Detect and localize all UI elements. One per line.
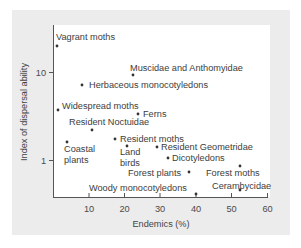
point-vagrant-moths xyxy=(56,45,59,48)
scatter-chart: 10 20 30 40 50 60 10 1 Endemics (%) Inde… xyxy=(0,0,301,248)
label-herbaceous: Herbaceous monocotyledons xyxy=(89,80,208,90)
x-tick-label: 60 xyxy=(262,204,272,214)
label-cerambycidae: Cerambycidae xyxy=(212,181,271,191)
point-coastal-plants xyxy=(66,141,69,144)
x-tick-label: 40 xyxy=(191,204,201,214)
point-resident-moths xyxy=(114,138,117,141)
label-coastal-plants-line1: Coastal xyxy=(64,144,95,154)
label-forest-plants: Forest plants xyxy=(128,168,182,178)
point-dicotyledons xyxy=(167,157,170,160)
label-coastal-plants-line2: plants xyxy=(64,155,89,165)
x-tick-label: 10 xyxy=(84,204,94,214)
label-muscidae: Muscidae and Anthomyidae xyxy=(130,63,243,73)
label-forest-moths: Forest moths xyxy=(206,168,260,178)
y-tick-label: 1 xyxy=(41,156,46,166)
label-resident-noctuidae: Resident Noctuidae xyxy=(69,117,149,127)
point-forest-plants xyxy=(188,171,191,174)
y-axis-title: Index of dispersal ability xyxy=(19,63,29,161)
label-resident-geometridae: Resident Geometridae xyxy=(161,142,253,152)
label-dicotyledons: Dicotyledons xyxy=(172,153,225,163)
y-tick-label: 10 xyxy=(36,68,46,78)
x-tick-label: 30 xyxy=(155,204,165,214)
point-herbaceous xyxy=(81,84,84,87)
x-axis-title: Endemics (%) xyxy=(132,219,189,229)
point-forest-moths xyxy=(239,165,242,168)
label-vagrant-moths: Vagrant moths xyxy=(56,32,115,42)
point-labels: Vagrant moths Muscidae and Anthomyidae H… xyxy=(56,32,271,193)
point-ferns xyxy=(137,113,140,116)
label-woody-monocotyledons: Woody monocotyledons xyxy=(89,183,187,193)
point-woody-monocotyledons xyxy=(195,193,198,196)
y-tick-labels: 10 1 xyxy=(36,68,46,166)
point-resident-noctuidae xyxy=(91,129,94,132)
label-land-birds-line2: birds xyxy=(120,158,140,168)
x-tick-labels: 10 20 30 40 50 60 xyxy=(84,204,273,214)
x-tick-label: 50 xyxy=(226,204,236,214)
point-widespread-moths xyxy=(57,109,60,112)
point-resident-geometridae xyxy=(156,146,159,149)
point-muscidae xyxy=(132,74,135,77)
label-widespread-moths: Widespread moths xyxy=(62,101,139,111)
label-land-birds-line1: Land xyxy=(120,147,140,157)
x-tick-label: 20 xyxy=(119,204,129,214)
